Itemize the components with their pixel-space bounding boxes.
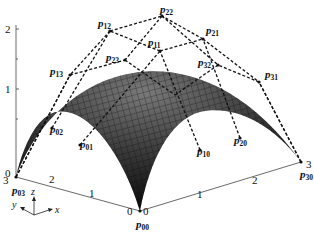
control-point-label-p03: p03 <box>11 184 25 198</box>
axis-legend-z: z <box>30 186 35 197</box>
y-tick-label: 0 <box>127 205 133 217</box>
x-tick-label: 0 <box>143 205 149 217</box>
control-point-marker <box>257 80 260 83</box>
control-point-label-p31: p31 <box>264 68 278 82</box>
z-tick-label: 1 <box>5 83 11 95</box>
axis-legend-x: x <box>54 204 60 215</box>
bezier-surface-figure: p00p01p02p03p10p11p12p13p20p21p22p23p30p… <box>0 0 314 232</box>
axis-legend-y: y <box>11 199 17 210</box>
control-point-marker <box>216 63 219 66</box>
control-point-label-p23: p23 <box>105 51 119 65</box>
control-point-label-p21: p21 <box>205 24 219 38</box>
y-tick-label: 1 <box>89 187 95 199</box>
control-point-label-p20: p20 <box>233 134 247 148</box>
control-point-marker <box>14 175 17 178</box>
control-point-marker <box>68 73 71 76</box>
control-point-marker <box>78 143 81 146</box>
x-tick-label: 3 <box>306 158 312 170</box>
control-point-label-p11: p11 <box>147 36 161 50</box>
x-tick-label: 1 <box>197 188 203 200</box>
y-tick-label: 2 <box>49 173 55 185</box>
control-point-label-p32: p32 <box>197 56 211 70</box>
control-point-marker <box>238 136 241 139</box>
y-tick-label: 3 <box>3 174 9 186</box>
control-point-label-p12: p12 <box>97 17 111 31</box>
bezier-surface <box>16 71 301 211</box>
z-axis <box>16 25 19 177</box>
z-tick-label: 2 <box>5 23 11 35</box>
control-point-label-p00: p00 <box>135 218 149 232</box>
control-point-label-p13: p13 <box>49 65 63 79</box>
x-tick-label: 2 <box>252 174 258 186</box>
control-point-marker <box>50 126 53 129</box>
control-point-label-p02: p02 <box>49 123 63 137</box>
control-point-label-p30: p30 <box>299 168 313 182</box>
control-point-marker <box>138 209 141 212</box>
control-point-label-p10: p10 <box>196 145 210 159</box>
control-point-marker <box>123 58 126 61</box>
control-point-marker <box>160 14 163 17</box>
control-point-marker <box>201 37 204 40</box>
control-point-marker <box>299 160 302 163</box>
control-point-marker <box>158 49 161 52</box>
control-point-marker <box>108 29 111 32</box>
control-point-marker <box>198 148 201 151</box>
